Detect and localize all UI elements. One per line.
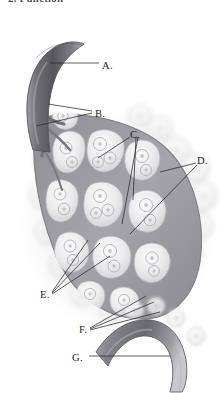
label-f: F. (79, 324, 87, 335)
label-g: G. (72, 352, 83, 363)
leader-line-b-1 (48, 104, 92, 111)
figure-root: 2. Function (0, 0, 223, 393)
label-c: C. (130, 129, 140, 140)
label-e: E. (40, 289, 50, 300)
label-a: A. (102, 60, 113, 71)
label-b: B. (95, 108, 105, 119)
label-d: D. (197, 155, 208, 166)
gland-illustration (0, 0, 223, 393)
